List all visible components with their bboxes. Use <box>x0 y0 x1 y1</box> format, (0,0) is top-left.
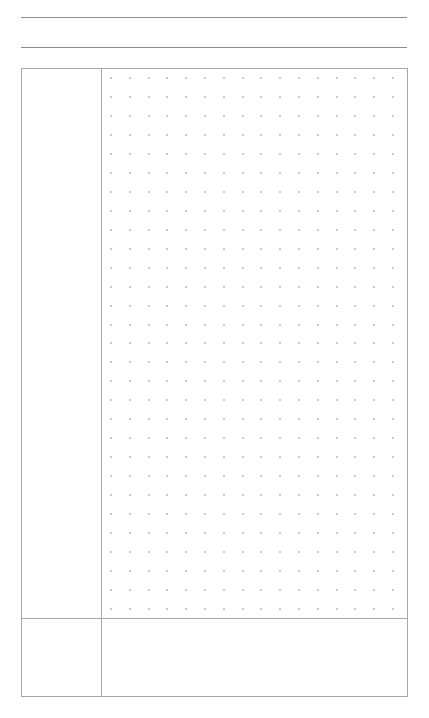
grid-dot <box>204 267 206 269</box>
grid-dot <box>148 134 150 136</box>
grid-dot <box>279 210 281 212</box>
grid-dot <box>392 589 394 591</box>
grid-dot <box>242 513 244 515</box>
grid-dot <box>336 570 338 572</box>
grid-dot <box>317 115 319 117</box>
summary-area[interactable] <box>102 619 407 696</box>
grid-dot <box>223 305 225 307</box>
grid-dot <box>204 589 206 591</box>
grid-dot <box>204 324 206 326</box>
grid-dot <box>223 324 225 326</box>
grid-dot <box>242 475 244 477</box>
grid-dot <box>204 115 206 117</box>
grid-dot <box>204 570 206 572</box>
grid-dot <box>373 267 375 269</box>
grid-dot <box>279 267 281 269</box>
grid-dot <box>298 210 300 212</box>
grid-dot <box>148 267 150 269</box>
grid-dot <box>129 513 131 515</box>
grid-dot <box>223 77 225 79</box>
grid-dot <box>129 305 131 307</box>
grid-dot <box>336 77 338 79</box>
grid-dot <box>373 229 375 231</box>
grid-dot <box>185 267 187 269</box>
grid-dot <box>242 210 244 212</box>
grid-dot <box>392 608 394 610</box>
grid-dot <box>148 456 150 458</box>
grid-dot <box>392 191 394 193</box>
grid-dot <box>110 77 112 79</box>
grid-dot <box>317 532 319 534</box>
grid-dot <box>392 77 394 79</box>
grid-dot <box>110 608 112 610</box>
grid-dot <box>317 551 319 553</box>
grid-dot <box>317 248 319 250</box>
grid-dot <box>223 210 225 212</box>
grid-dot <box>242 96 244 98</box>
grid-dot <box>336 153 338 155</box>
grid-dot <box>336 172 338 174</box>
grid-dot <box>317 570 319 572</box>
grid-dot <box>298 551 300 553</box>
grid-dot <box>279 286 281 288</box>
grid-dot <box>110 96 112 98</box>
grid-dot <box>223 153 225 155</box>
grid-dot <box>317 191 319 193</box>
grid-dot <box>223 494 225 496</box>
grid-dot <box>298 229 300 231</box>
grid-dot <box>204 608 206 610</box>
grid-dot <box>242 551 244 553</box>
grid-dot <box>204 153 206 155</box>
grid-dot <box>148 210 150 212</box>
grid-dot <box>129 267 131 269</box>
grid-dot <box>148 153 150 155</box>
grid-dot <box>223 513 225 515</box>
grid-dot <box>279 229 281 231</box>
cue-column[interactable] <box>22 69 101 618</box>
grid-dot <box>148 551 150 553</box>
grid-dot <box>148 494 150 496</box>
grid-dot <box>185 229 187 231</box>
grid-dot <box>336 115 338 117</box>
grid-dot <box>298 134 300 136</box>
grid-dot <box>242 286 244 288</box>
grid-dot <box>373 305 375 307</box>
grid-dot <box>110 229 112 231</box>
grid-dot <box>110 305 112 307</box>
grid-dot <box>317 589 319 591</box>
grid-dot <box>148 324 150 326</box>
grid-dot <box>392 134 394 136</box>
grid-dot <box>336 134 338 136</box>
grid-dot <box>317 513 319 515</box>
grid-dot <box>336 494 338 496</box>
grid-dot <box>129 608 131 610</box>
grid-dot <box>392 115 394 117</box>
grid-dot <box>223 570 225 572</box>
grid-dot <box>110 267 112 269</box>
grid-dot <box>298 570 300 572</box>
grid-dot <box>110 172 112 174</box>
grid-dot <box>317 494 319 496</box>
grid-dot <box>148 305 150 307</box>
grid-dot <box>298 305 300 307</box>
grid-dot <box>129 153 131 155</box>
grid-dot <box>204 305 206 307</box>
grid-dot <box>110 191 112 193</box>
grid-dot <box>298 532 300 534</box>
grid-dot <box>317 286 319 288</box>
grid-dot <box>242 229 244 231</box>
summary-left-cell[interactable] <box>22 619 101 696</box>
grid-dot <box>110 570 112 572</box>
grid-dot <box>317 210 319 212</box>
grid-dot <box>148 513 150 515</box>
grid-dot <box>373 210 375 212</box>
grid-dot <box>242 115 244 117</box>
grid-dot <box>242 172 244 174</box>
grid-dot <box>110 210 112 212</box>
grid-dot <box>298 248 300 250</box>
grid-dot <box>242 248 244 250</box>
grid-dot <box>148 570 150 572</box>
grid-dot <box>148 437 150 439</box>
grid-dot <box>223 248 225 250</box>
grid-dot <box>317 305 319 307</box>
